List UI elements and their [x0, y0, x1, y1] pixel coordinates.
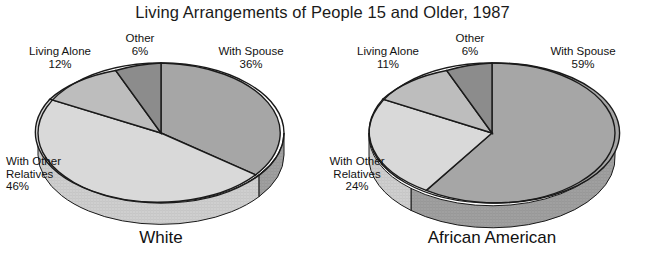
- label-white-with-spouse-value: 36%: [208, 58, 294, 71]
- label-white-other-name: Other: [112, 32, 168, 45]
- pies-canvas: [0, 0, 645, 264]
- label-white-with-spouse: With Spouse 36%: [208, 45, 294, 70]
- label-aa-with-spouse-value: 59%: [540, 58, 626, 71]
- label-aa-other: Other 6%: [442, 32, 498, 57]
- label-white-with-other-relatives-name: With Other: [6, 155, 92, 168]
- label-aa-living-alone-name: Living Alone: [346, 45, 430, 58]
- label-aa-with-other-relatives: With Other Relatives 24%: [314, 155, 400, 193]
- label-white-living-alone-name: Living Alone: [18, 45, 102, 58]
- label-aa-with-spouse: With Spouse 59%: [540, 45, 626, 70]
- label-white-with-other-relatives-value: 46%: [6, 180, 92, 193]
- label-white-other: Other 6%: [112, 32, 168, 57]
- label-aa-other-name: Other: [442, 32, 498, 45]
- label-white-other-value: 6%: [112, 45, 168, 58]
- pie-white: [35, 63, 284, 224]
- label-white-living-alone: Living Alone 12%: [18, 45, 102, 70]
- label-aa-other-value: 6%: [442, 45, 498, 58]
- label-aa-living-alone: Living Alone 11%: [346, 45, 430, 70]
- label-aa-with-other-relatives-name2: Relatives: [314, 168, 400, 181]
- label-white-with-spouse-name: With Spouse: [208, 45, 294, 58]
- label-white-with-other-relatives-name2: Relatives: [6, 168, 92, 181]
- caption-white: White: [61, 228, 261, 248]
- pie-chart-figure: Living Arrangements of People 15 and Old…: [0, 0, 645, 264]
- label-aa-with-spouse-name: With Spouse: [540, 45, 626, 58]
- caption-african-american: African American: [372, 228, 612, 248]
- label-aa-with-other-relatives-value: 24%: [314, 180, 400, 193]
- pie-african-american: [369, 63, 620, 228]
- label-white-living-alone-value: 12%: [18, 58, 102, 71]
- label-white-with-other-relatives: With Other Relatives 46%: [6, 155, 92, 193]
- label-aa-living-alone-value: 11%: [346, 58, 430, 71]
- label-aa-with-other-relatives-name: With Other: [314, 155, 400, 168]
